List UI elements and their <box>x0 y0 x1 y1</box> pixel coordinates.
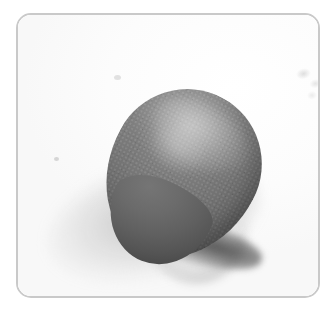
photo-viewport <box>18 15 318 296</box>
speck-artifact-left <box>54 157 59 161</box>
image-alt-text: A smooth gray teardrop-shaped stone rest… <box>0 0 1 1</box>
speck-artifact-top <box>114 75 121 80</box>
image-canvas: A smooth gray teardrop-shaped stone rest… <box>0 0 336 313</box>
photo-frame <box>16 13 320 298</box>
